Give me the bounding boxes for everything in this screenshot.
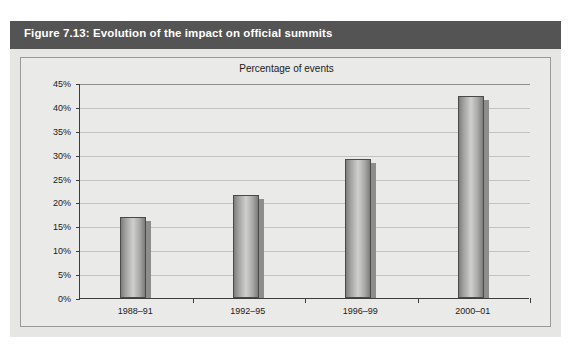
y-axis-tick-label: 30% <box>25 151 71 161</box>
y-axis-tick-label: 10% <box>25 246 71 256</box>
x-axis-tick-mark <box>418 298 419 303</box>
gridline <box>80 84 530 85</box>
y-axis-tick-mark <box>76 84 80 85</box>
y-axis-tick-label: 20% <box>25 198 71 208</box>
plot-area <box>79 84 529 299</box>
bar <box>345 159 371 299</box>
y-axis-tick-label: 45% <box>25 79 71 89</box>
bar <box>233 195 259 298</box>
y-axis-tick-mark <box>76 275 80 276</box>
y-axis-tick-mark <box>76 299 80 300</box>
chart-frame: Percentage of events 0%5%10%15%20%25%30%… <box>20 57 551 327</box>
x-axis-category-label: 1996–99 <box>304 306 417 316</box>
x-axis-category-label: 1992–95 <box>192 306 305 316</box>
x-axis-category-label: 2000–01 <box>417 306 530 316</box>
y-axis-tick-label: 40% <box>25 103 71 113</box>
y-axis-tick-mark <box>76 180 80 181</box>
y-axis-tick-label: 5% <box>25 270 71 280</box>
y-axis-tick-label: 35% <box>25 127 71 137</box>
y-axis-tick-mark <box>76 132 80 133</box>
x-axis-category-label: 1988–91 <box>79 306 192 316</box>
y-axis-tick-mark <box>76 203 80 204</box>
x-axis-tick-mark <box>530 298 531 303</box>
figure-container: Figure 7.13: Evolution of the impact on … <box>10 21 561 337</box>
y-axis-tick-mark <box>76 227 80 228</box>
y-axis-tick-label: 15% <box>25 222 71 232</box>
bar <box>120 217 146 298</box>
bar <box>458 96 484 298</box>
y-axis-tick-mark <box>76 156 80 157</box>
figure-body: Percentage of events 0%5%10%15%20%25%30%… <box>10 49 561 337</box>
y-axis-tick-mark <box>76 108 80 109</box>
y-axis-tick-label: 0% <box>25 294 71 304</box>
figure-header-bar: Figure 7.13: Evolution of the impact on … <box>10 21 561 49</box>
x-axis-tick-mark <box>193 298 194 303</box>
y-axis-tick-label: 25% <box>25 175 71 185</box>
y-axis-tick-mark <box>76 251 80 252</box>
x-axis-tick-mark <box>305 298 306 303</box>
figure-title: Figure 7.13: Evolution of the impact on … <box>24 27 332 39</box>
chart-title: Percentage of events <box>21 63 552 74</box>
